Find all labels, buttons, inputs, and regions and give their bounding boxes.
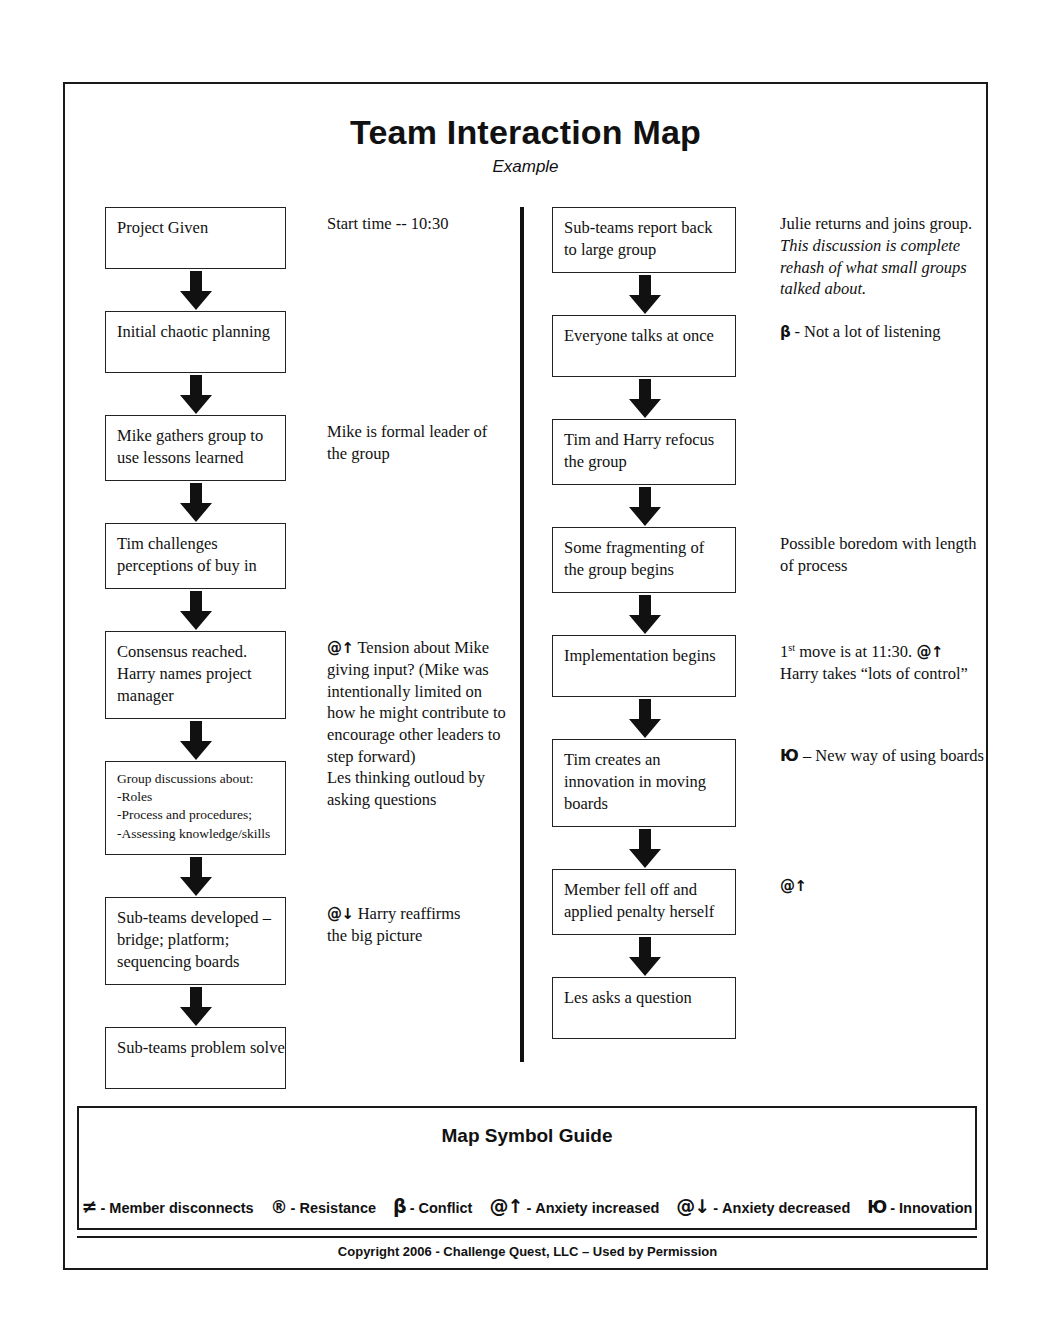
flow-node: Tim and Harry refocusthe group — [552, 419, 736, 485]
flow-node-line: manager — [117, 685, 274, 707]
annotation-line: asking questions — [327, 789, 527, 811]
flow-annotation: Ю – New way of using boards — [780, 745, 990, 767]
annotation-line: how he might contribute to — [327, 702, 527, 724]
annotation-line: step forward) — [327, 746, 527, 768]
flow-node-line: -Process and procedures; — [117, 806, 274, 824]
flow-node-line: Sub-teams problem solve — [117, 1037, 274, 1059]
symbol-icon: @↑ — [780, 877, 807, 895]
flow-node: Group discussions about:-Roles-Process a… — [105, 761, 286, 855]
flow-arrow-down-icon — [179, 721, 213, 761]
legend-item: @↓-Anxiety decreased — [676, 1195, 850, 1217]
flow-node-line: Consensus reached. — [117, 641, 274, 663]
annotation-line: Possible boredom with length — [780, 533, 990, 555]
flow-arrow-down-icon — [179, 857, 213, 897]
flow-node: Implementation begins — [552, 635, 736, 697]
flow-node-line: Les asks a question — [564, 987, 724, 1009]
legend-label: Member disconnects — [109, 1200, 253, 1216]
footer-divider — [77, 1236, 977, 1238]
flow-arrow-down-icon — [179, 987, 213, 1027]
flow-node-line: Tim challenges — [117, 533, 274, 555]
annotation-line: giving input? (Mike was — [327, 659, 527, 681]
annotation-line-italic: rehash of what small groups — [780, 257, 990, 279]
flow-node-line: Group discussions about: — [117, 770, 274, 788]
legend-separator: - — [526, 1200, 531, 1216]
flow-node-line: use lessons learned — [117, 447, 274, 469]
legend-item: ≠-Member disconnects — [82, 1195, 254, 1217]
flow-annotation: Mike is formal leader ofthe group — [327, 421, 527, 465]
flow-node-line: applied penalty herself — [564, 901, 724, 923]
flow-node: Some fragmenting ofthe group begins — [552, 527, 736, 593]
flow-arrow-down-icon — [628, 699, 662, 739]
flow-diagram: Project GivenStart time -- 10:30Initial … — [65, 84, 990, 1272]
flow-node-line: Some fragmenting of — [564, 537, 724, 559]
flow-annotation: 1st move is at 11:30. @↑Harry takes “lot… — [780, 641, 990, 685]
flow-node: Sub-teams developed –bridge; platform;se… — [105, 897, 286, 985]
flow-node-line: bridge; platform; — [117, 929, 274, 951]
flow-arrow-down-icon — [628, 595, 662, 635]
flow-node-line: the group begins — [564, 559, 724, 581]
annotation-line: @↑ — [780, 875, 990, 897]
annotation-line: intentionally limited on — [327, 681, 527, 703]
copyright-notice: Copyright 2006 - Challenge Quest, LLC – … — [65, 1244, 990, 1259]
annotation-line: Ю – New way of using boards — [780, 745, 990, 767]
annotation-line: Mike is formal leader of — [327, 421, 527, 443]
legend-label: Anxiety increased — [535, 1200, 659, 1216]
page-frame: Team Interaction Map Example Project Giv… — [63, 82, 988, 1270]
legend-symbol-icon: @↓ — [676, 1195, 709, 1217]
legend-separator: - — [101, 1200, 106, 1216]
annotation-line: Harry takes “lots of control” — [780, 663, 990, 685]
legend-separator: - — [890, 1200, 895, 1216]
flow-node-line: Tim creates an — [564, 749, 724, 771]
flow-node: Mike gathers group touse lessons learned — [105, 415, 286, 481]
flow-node: Consensus reached.Harry names projectman… — [105, 631, 286, 719]
flow-arrow-down-icon — [628, 379, 662, 419]
legend-symbol-icon: Ю — [867, 1197, 886, 1217]
annotation-line-italic: talked about. — [780, 278, 990, 300]
legend-label: Anxiety decreased — [722, 1200, 850, 1216]
flow-node-line: Implementation begins — [564, 645, 724, 667]
flow-node-line: Sub-teams developed – — [117, 907, 274, 929]
flow-node-line: boards — [564, 793, 724, 815]
annotation-line: @↓ Harry reaffirms — [327, 903, 527, 925]
flow-annotation: @↑ Tension about Mikegiving input? (Mike… — [327, 637, 527, 768]
legend-title: Map Symbol Guide — [79, 1125, 975, 1147]
legend-symbol-icon: ® — [271, 1197, 287, 1217]
flow-node: Tim challengesperceptions of buy in — [105, 523, 286, 589]
flow-node: Sub-teams problem solve — [105, 1027, 286, 1089]
legend-label: Conflict — [418, 1200, 472, 1216]
legend-items: ≠-Member disconnects®-Resistanceβ-Confli… — [79, 1195, 975, 1217]
flow-node: Project Given — [105, 207, 286, 269]
annotation-line: Start time -- 10:30 — [327, 213, 527, 235]
legend-item: @↑-Anxiety increased — [489, 1195, 659, 1217]
flow-arrow-down-icon — [179, 375, 213, 415]
legend-separator: - — [291, 1200, 296, 1216]
symbol-icon: β — [780, 323, 790, 341]
flow-node: Les asks a question — [552, 977, 736, 1039]
annotation-line: β - Not a lot of listening — [780, 321, 990, 343]
flow-node: Tim creates aninnovation in movingboards — [552, 739, 736, 827]
flow-node-line: to large group — [564, 239, 724, 261]
flow-annotation: Start time -- 10:30 — [327, 213, 527, 235]
flow-arrow-down-icon — [628, 487, 662, 527]
legend-separator: - — [713, 1200, 718, 1216]
anxiety-increased-icon: @↑ — [916, 643, 943, 661]
flow-annotation: @↑ — [780, 875, 990, 897]
annotation-line-italic: This discussion is complete — [780, 235, 990, 257]
flow-annotation: β - Not a lot of listening — [780, 321, 990, 343]
annotation-line: Julie returns and joins group. — [780, 213, 990, 235]
flow-node-line: Sub-teams report back — [564, 217, 724, 239]
legend-label: Resistance — [299, 1200, 376, 1216]
flow-node-line: the group — [564, 451, 724, 473]
flow-annotation: Les thinking outloud byasking questions — [327, 767, 527, 811]
flow-node-line: Project Given — [117, 217, 274, 239]
annotation-line: Les thinking outloud by — [327, 767, 527, 789]
map-symbol-guide: Map Symbol Guide ≠-Member disconnects®-R… — [77, 1106, 977, 1230]
annotation-line: of process — [780, 555, 990, 577]
flow-node-line: sequencing boards — [117, 951, 274, 973]
flow-node-line: -Assessing knowledge/skills — [117, 825, 274, 843]
flow-arrow-down-icon — [628, 275, 662, 315]
flow-node-line: innovation in moving — [564, 771, 724, 793]
flow-node: Sub-teams report backto large group — [552, 207, 736, 273]
flow-node-line: Tim and Harry refocus — [564, 429, 724, 451]
flow-node-line: Initial chaotic planning — [117, 321, 274, 343]
